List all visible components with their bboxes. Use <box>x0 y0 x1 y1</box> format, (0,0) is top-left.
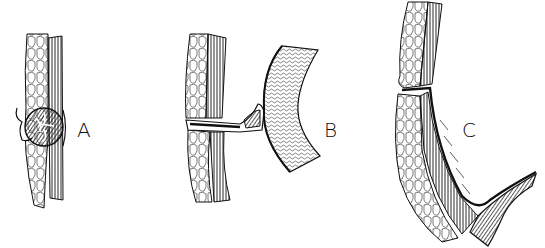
panel-b-drawing <box>186 34 321 202</box>
panel-a-drawing <box>16 34 65 208</box>
panel-c-label: C <box>462 120 476 140</box>
panel-b-label: B <box>324 120 337 140</box>
anatomical-figure: A B C <box>0 0 545 248</box>
panel-a-label: A <box>77 120 91 140</box>
